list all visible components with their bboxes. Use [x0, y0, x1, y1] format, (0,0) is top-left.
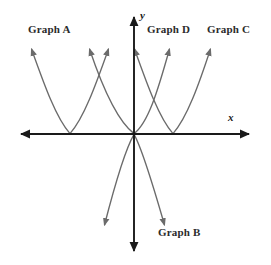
parabola-figure	[0, 0, 271, 265]
curve-label-graph-d: Graph D	[147, 23, 190, 35]
y-axis-label: y	[140, 9, 145, 21]
curve-label-graph-b: Graph B	[158, 226, 201, 238]
figure-container: Graph A Graph D Graph C Graph B x y	[0, 0, 271, 265]
curve-label-graph-a: Graph A	[28, 23, 71, 35]
curve-graph-a	[32, 49, 109, 134]
x-axis-label: x	[228, 111, 234, 123]
curve-graph-d	[90, 49, 170, 134]
curve-label-graph-c: Graph C	[207, 23, 250, 35]
curve-graph-c	[135, 49, 211, 134]
curves-group	[32, 49, 211, 225]
